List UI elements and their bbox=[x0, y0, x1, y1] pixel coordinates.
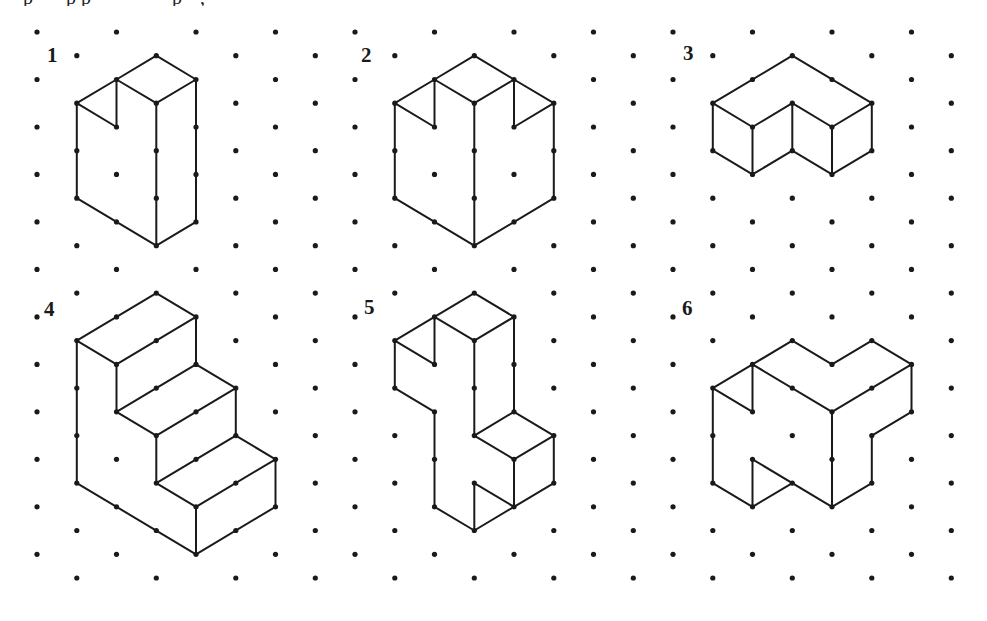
grid-dot bbox=[631, 243, 636, 248]
grid-dot bbox=[591, 552, 596, 557]
grid-dot bbox=[352, 29, 357, 34]
grid-dot bbox=[511, 552, 516, 557]
figure-edge bbox=[77, 103, 117, 127]
grid-dot bbox=[273, 409, 278, 414]
figure-4 bbox=[77, 293, 276, 554]
figure-edge bbox=[156, 80, 196, 104]
figure-edge bbox=[77, 341, 117, 365]
grid-dot bbox=[949, 386, 954, 391]
figure-edge bbox=[156, 222, 196, 246]
grid-dot bbox=[710, 196, 715, 201]
figure-edge bbox=[872, 341, 912, 365]
figure-edge bbox=[117, 412, 157, 436]
grid-dot bbox=[790, 433, 795, 438]
grid-dot bbox=[233, 243, 238, 248]
grid-dot bbox=[273, 267, 278, 272]
grid-dot bbox=[750, 219, 755, 224]
grid-dot bbox=[790, 243, 795, 248]
figure-edge bbox=[792, 151, 832, 175]
figure-edge bbox=[753, 364, 833, 411]
grid-dot bbox=[34, 314, 39, 319]
figure-edge bbox=[156, 56, 196, 80]
figure-edge bbox=[435, 80, 475, 104]
grid-dot bbox=[273, 552, 278, 557]
grid-dot bbox=[949, 291, 954, 296]
grid-dot bbox=[631, 575, 636, 580]
grid-dot bbox=[670, 314, 675, 319]
grid-dot bbox=[829, 552, 834, 557]
figure-edge bbox=[196, 507, 276, 555]
grid-dot bbox=[352, 362, 357, 367]
grid-dot bbox=[273, 219, 278, 224]
grid-dot bbox=[392, 481, 397, 486]
grid-dot bbox=[352, 172, 357, 177]
figure-edge bbox=[713, 103, 753, 127]
grid-dot bbox=[352, 124, 357, 129]
figure-edge bbox=[753, 151, 793, 175]
grid-dot bbox=[34, 219, 39, 224]
grid-dot bbox=[392, 433, 397, 438]
figure-edge bbox=[514, 80, 554, 104]
grid-dot bbox=[829, 219, 834, 224]
figure-edge bbox=[395, 198, 475, 246]
figure-edge bbox=[832, 103, 872, 127]
grid-dot bbox=[352, 457, 357, 462]
figure-edge bbox=[832, 483, 872, 507]
figure-edge bbox=[792, 103, 832, 127]
grid-dot bbox=[74, 528, 79, 533]
figure-edge bbox=[435, 56, 475, 80]
grid-dot bbox=[909, 219, 914, 224]
figure-edge bbox=[713, 364, 753, 388]
grid-dot bbox=[352, 552, 357, 557]
grid-dot bbox=[313, 53, 318, 58]
grid-dot bbox=[392, 291, 397, 296]
grid-dot bbox=[352, 267, 357, 272]
grid-dot bbox=[432, 172, 437, 177]
grid-dot bbox=[154, 575, 159, 580]
grid-dot bbox=[74, 53, 79, 58]
grid-dot bbox=[670, 29, 675, 34]
figure-edge bbox=[77, 483, 196, 554]
grid-dot bbox=[631, 528, 636, 533]
grid-dot bbox=[74, 243, 79, 248]
grid-dot bbox=[313, 433, 318, 438]
figure-edge bbox=[713, 56, 793, 103]
grid-dot bbox=[551, 291, 556, 296]
grid-dot bbox=[670, 552, 675, 557]
figure-edge bbox=[77, 293, 157, 341]
figure-edge bbox=[792, 56, 872, 103]
grid-dot bbox=[591, 124, 596, 129]
figure-label-3: 3 bbox=[683, 41, 694, 65]
grid-dot bbox=[591, 457, 596, 462]
grid-dot bbox=[313, 291, 318, 296]
grid-dot bbox=[591, 362, 596, 367]
figure-edge bbox=[832, 341, 872, 365]
figure-edge bbox=[474, 436, 514, 460]
grid-dot bbox=[313, 481, 318, 486]
grid-dot bbox=[551, 386, 556, 391]
figure-label-1: 1 bbox=[47, 43, 58, 67]
grid-dot bbox=[273, 124, 278, 129]
figure-edge bbox=[832, 151, 872, 175]
grid-dot bbox=[233, 53, 238, 58]
figure-edge bbox=[196, 459, 276, 507]
grid-dot bbox=[710, 243, 715, 248]
grid-dot bbox=[591, 267, 596, 272]
grid-dot bbox=[909, 267, 914, 272]
grid-dot bbox=[591, 172, 596, 177]
grid-dot bbox=[233, 148, 238, 153]
grid-dot bbox=[869, 528, 874, 533]
grid-dot bbox=[34, 504, 39, 509]
figure-edge bbox=[395, 317, 435, 341]
grid-dot bbox=[114, 267, 119, 272]
grid-dot bbox=[352, 219, 357, 224]
grid-dot bbox=[472, 575, 477, 580]
grid-dot bbox=[352, 504, 357, 509]
grid-dot bbox=[829, 314, 834, 319]
figure-edge bbox=[156, 436, 236, 484]
grid-dot bbox=[631, 148, 636, 153]
grid-dot bbox=[591, 77, 596, 82]
figure-5 bbox=[395, 293, 554, 530]
grid-dot bbox=[869, 243, 874, 248]
grid-dot bbox=[551, 575, 556, 580]
